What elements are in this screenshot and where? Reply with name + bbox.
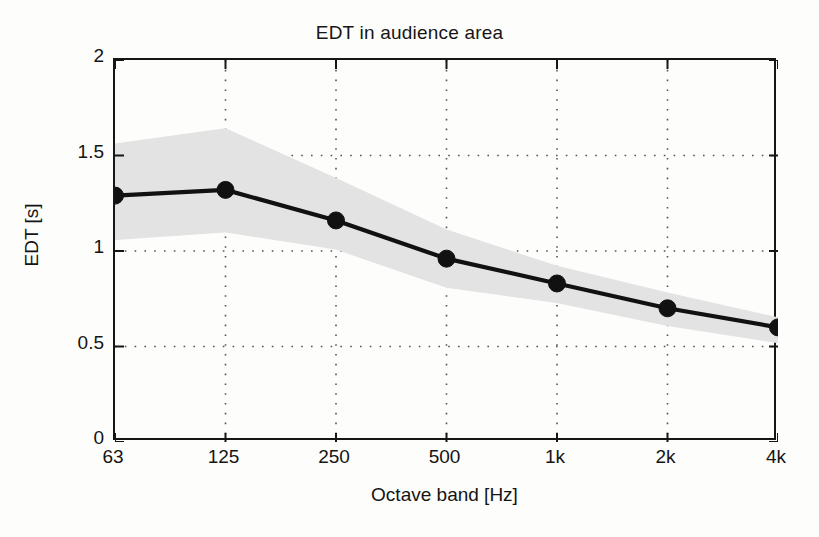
y-tick-label: 1.5 <box>44 141 104 163</box>
x-tick-label: 125 <box>184 446 264 468</box>
x-tick-label: 500 <box>405 446 485 468</box>
y-tick-label: 0.5 <box>44 332 104 354</box>
y-tick-label: 2 <box>44 45 104 67</box>
y-axis-label: EDT [s] <box>21 155 43 315</box>
chart-title: EDT in audience area <box>0 22 819 44</box>
x-tick-label: 250 <box>294 446 374 468</box>
x-tick-label: 4k <box>736 446 816 468</box>
y-tick-label: 1 <box>44 236 104 258</box>
x-tick-label: 63 <box>73 446 153 468</box>
x-tick-label: 1k <box>515 446 595 468</box>
x-axis-label: Octave band [Hz] <box>113 484 776 506</box>
plot-svg <box>115 60 778 442</box>
chart-figure: EDT in audience area 00.511.52 631252505… <box>0 0 819 537</box>
x-tick-label: 2k <box>626 446 706 468</box>
plot-area <box>113 58 776 440</box>
